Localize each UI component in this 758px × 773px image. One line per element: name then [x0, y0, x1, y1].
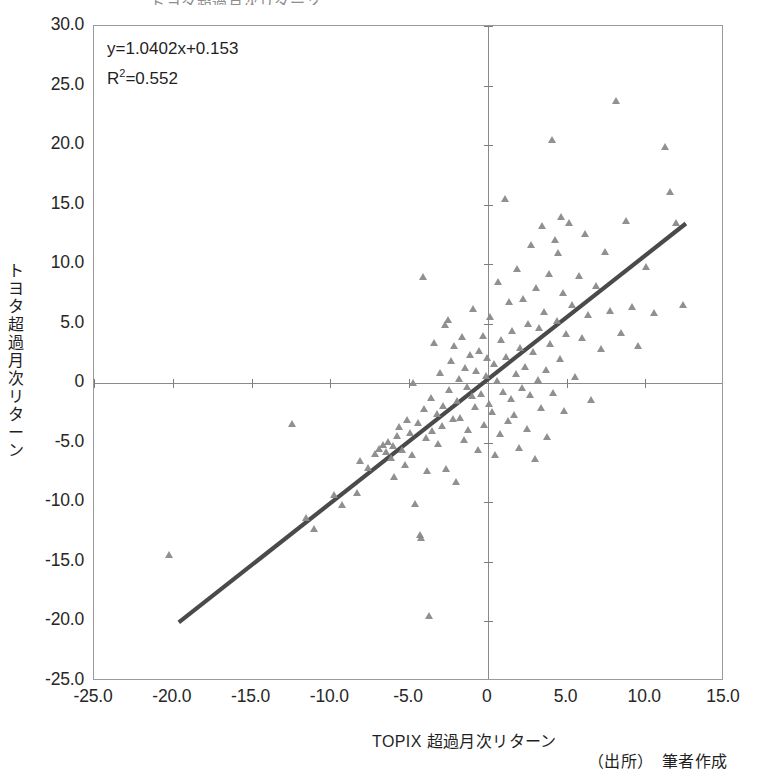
- data-point: [393, 432, 401, 439]
- data-point: [439, 402, 447, 409]
- data-point: [568, 301, 576, 308]
- x-axis-tick: [645, 379, 646, 388]
- data-point: [493, 377, 501, 384]
- x-axis-tick: [252, 379, 253, 388]
- data-point: [445, 386, 453, 393]
- data-point: [427, 394, 435, 401]
- data-point: [468, 392, 476, 399]
- data-point: [455, 375, 463, 382]
- data-point: [516, 344, 524, 351]
- x-axis-tick: [173, 379, 174, 388]
- data-point: [526, 391, 534, 398]
- y-axis-title-char: ヨ: [4, 280, 28, 298]
- data-point: [606, 307, 614, 314]
- data-point: [523, 425, 531, 432]
- x-axis-tick: [94, 379, 95, 388]
- y-zero-axis-line: [488, 26, 489, 679]
- data-point: [617, 329, 625, 336]
- y-axis-title-char: 次: [4, 370, 28, 388]
- y-axis-title-char: ト: [4, 262, 28, 280]
- data-point: [679, 301, 687, 308]
- y-axis-tick: [484, 145, 493, 146]
- data-point: [447, 357, 455, 364]
- data-point: [556, 355, 564, 362]
- data-point: [510, 411, 518, 418]
- data-point: [491, 451, 499, 458]
- data-point: [507, 395, 515, 402]
- data-point: [548, 136, 556, 143]
- data-point: [442, 465, 450, 472]
- chart-title: トヨタ超過月次リターン: [150, 0, 570, 5]
- data-point: [535, 324, 543, 331]
- y-axis-tick: [484, 26, 493, 27]
- data-point: [672, 219, 680, 226]
- data-point: [521, 363, 529, 370]
- x-axis-tick-label: 0: [482, 686, 492, 707]
- data-point: [537, 404, 545, 411]
- x-axis-tick-label: -10.0: [310, 686, 349, 707]
- data-point: [338, 501, 346, 508]
- data-point: [436, 369, 444, 376]
- data-point: [452, 478, 460, 485]
- data-point: [330, 491, 338, 498]
- data-point: [353, 489, 361, 496]
- data-point: [496, 430, 504, 437]
- y-axis-tick-label: 15.0: [51, 193, 84, 214]
- y-axis-tick-label: 30.0: [51, 14, 84, 35]
- data-point: [508, 327, 516, 334]
- y-axis-tick-label: -10.0: [45, 490, 84, 511]
- chart-root: トヨタ超過月次リターン 30.025.020.015.010.05.00-5.0…: [0, 0, 758, 773]
- data-point: [661, 143, 669, 150]
- data-point: [592, 282, 600, 289]
- data-point: [472, 367, 480, 374]
- data-point: [460, 436, 468, 443]
- data-point: [534, 376, 542, 383]
- r-squared-value: R2=0.552: [107, 61, 238, 91]
- data-point: [434, 440, 442, 447]
- data-point: [364, 464, 372, 471]
- data-point: [428, 427, 436, 434]
- y-axis-tick: [484, 86, 493, 87]
- data-point: [562, 330, 570, 337]
- data-point: [469, 305, 477, 312]
- data-point: [666, 188, 674, 195]
- data-point: [417, 534, 425, 541]
- x-axis-tick-labels: -25.0-20.0-15.0-10.0-5.005.010.015.0: [93, 686, 723, 710]
- data-point: [565, 219, 573, 226]
- y-axis-tick: [484, 621, 493, 622]
- data-point: [479, 332, 487, 339]
- y-axis-title-char: ン: [4, 442, 28, 460]
- plot-inner: [94, 26, 722, 679]
- y-axis-title-char: 月: [4, 352, 28, 370]
- data-point: [501, 195, 509, 202]
- data-point: [422, 434, 430, 441]
- data-point: [356, 457, 364, 464]
- x-axis-tick-label: -20.0: [152, 686, 191, 707]
- data-point: [475, 347, 483, 354]
- regression-equation: y=1.0402x+0.153: [107, 36, 238, 61]
- data-point: [449, 415, 457, 422]
- y-axis-tick-label: -15.0: [45, 550, 84, 571]
- y-axis-title-char: タ: [4, 298, 28, 316]
- data-point: [545, 270, 553, 277]
- data-point: [571, 373, 579, 380]
- x-axis-tick-label: 5.0: [554, 686, 578, 707]
- y-axis-title-char: リ: [4, 388, 28, 406]
- data-point: [559, 289, 567, 296]
- data-point: [450, 342, 458, 349]
- data-point: [524, 320, 532, 327]
- data-point: [642, 263, 650, 270]
- source-note: （出所） 筆者作成: [588, 748, 728, 772]
- data-point: [551, 236, 559, 243]
- data-point: [622, 217, 630, 224]
- y-axis-tick: [484, 502, 493, 503]
- data-point: [502, 353, 510, 360]
- data-point: [549, 389, 557, 396]
- data-point: [531, 455, 539, 462]
- data-point: [494, 278, 502, 285]
- data-point: [486, 313, 494, 320]
- data-point: [485, 400, 493, 407]
- y-axis-tick-label: -5.0: [55, 431, 84, 452]
- data-point: [634, 342, 642, 349]
- data-point: [456, 414, 464, 421]
